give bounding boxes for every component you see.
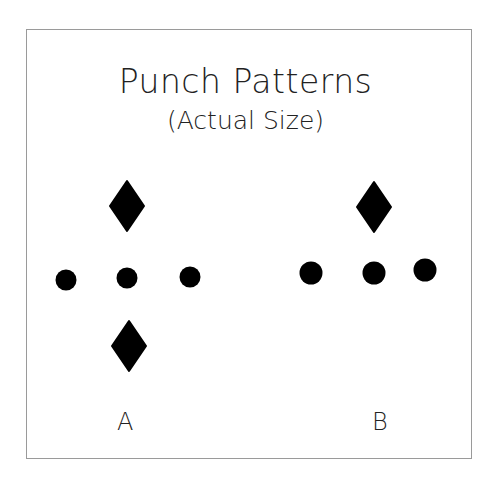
circle-icon [363, 262, 386, 285]
pattern-a [56, 181, 201, 371]
pattern-a-label: A [117, 408, 133, 436]
punch-shapes [0, 0, 491, 480]
circle-icon [56, 270, 77, 291]
circle-icon [414, 259, 437, 282]
circle-icon [300, 262, 323, 285]
pattern-b [300, 182, 437, 285]
diamond-icon [112, 321, 146, 371]
circle-icon [180, 267, 201, 288]
pattern-b-label: B [372, 408, 388, 436]
diamond-icon [357, 182, 391, 232]
circle-icon [117, 268, 138, 289]
diamond-icon [110, 181, 144, 231]
